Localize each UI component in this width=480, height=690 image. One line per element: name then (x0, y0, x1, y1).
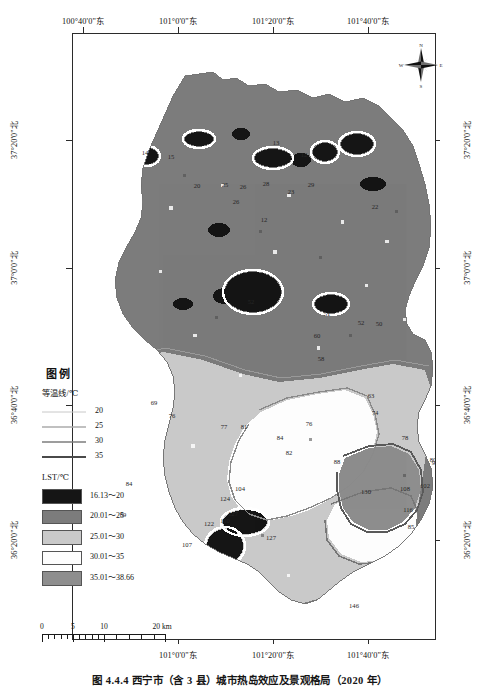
contour-label: 25 (222, 181, 229, 188)
lst-swatch-25-30 (42, 530, 82, 545)
axis-x-top-label-1: 100°40'0"东 (62, 14, 104, 26)
contour-label: 50 (376, 320, 383, 327)
thematic-map-figure: 100°40'0"东 101°0'0"东 101°20'0"东 101°40'0… (0, 0, 480, 690)
scale-tick (129, 634, 130, 639)
axis-y-left-label-4: 36°20'0"北 (7, 521, 19, 559)
scale-tick (54, 634, 55, 639)
scale-tick (154, 634, 155, 639)
scale-tick-label-10: 10 (100, 622, 108, 631)
axis-y-left-label-1: 37°20'0"北 (7, 121, 19, 159)
scale-tick (85, 634, 86, 639)
contour-label: 23 (288, 188, 295, 195)
legend-isotherm-row[interactable]: 30 (40, 434, 162, 449)
contour-label: 90 (432, 459, 436, 466)
contour-label: 28 (263, 180, 270, 187)
isotherm-swatch-35 (42, 454, 86, 460)
legend-isotherm-row[interactable]: 35 (40, 449, 162, 464)
legend-class-label: 35.01～38.66 (90, 574, 134, 583)
legend-isotherm-value: 30 (95, 437, 103, 446)
scale-tick (98, 634, 99, 639)
contour-label: 12 (261, 216, 268, 223)
legend-class-label: 20.01～25 (90, 512, 124, 521)
legend-isotherm-heading: 等温线/℃ (42, 389, 162, 398)
legend-isotherm-value: 35 (95, 452, 103, 461)
legend-class-row[interactable]: 25.01～30 (40, 528, 162, 546)
contour-label: 116 (403, 506, 413, 513)
legend-class-label: 30.01～35 (90, 553, 124, 562)
contour-label: 130 (361, 488, 371, 495)
legend-lst-heading: LST/℃ (42, 473, 162, 482)
axis-x-bottom-label-3: 101°40'0"东 (347, 648, 389, 660)
contour-label: 60 (314, 332, 321, 339)
legend-isotherm-row[interactable]: 25 (40, 419, 162, 434)
axis-y-right-label-2: 37°0'0"北 (460, 251, 472, 285)
contour-label: 22 (372, 203, 379, 210)
legend-class-row[interactable]: 20.01～25 (40, 508, 162, 526)
contour-label: 102 (420, 482, 430, 489)
legend-class-row[interactable]: 30.01～35 (40, 549, 162, 567)
axis-x-bottom-label-1: 101°0'0"东 (159, 648, 197, 660)
lst-swatch-16-20 (42, 489, 82, 504)
axis-x-top-label-4: 101°40'0"东 (347, 14, 389, 26)
contour-label: 110 (220, 517, 230, 524)
legend-class-label: 16.13～20 (90, 492, 124, 501)
contour-label: 13 (273, 139, 280, 146)
contour-label: 20 (194, 182, 201, 189)
legend-class-row[interactable]: 16.13～20 (40, 487, 162, 505)
contour-label: 78 (402, 434, 409, 441)
contour-label: 52 (248, 298, 255, 305)
isotherm-swatch-20 (42, 409, 86, 415)
contour-label: 76 (306, 420, 313, 427)
contour-label: 29 (308, 181, 315, 188)
contour-label: 63 (368, 392, 375, 399)
axis-y-left-label-2: 37°0'0"北 (7, 251, 19, 285)
axis-x-top-label-3: 101°20'0"东 (252, 14, 294, 26)
contour-label: 85 (408, 523, 415, 530)
contour-label: 15 (168, 153, 175, 160)
compass-west-label: W (399, 63, 404, 68)
axis-y-left-label-3: 36°40'0"北 (7, 386, 19, 424)
legend-isotherm-row[interactable]: 20 (40, 404, 162, 419)
scale-tick (79, 634, 80, 639)
legend-class-row[interactable]: 35.01～38.66 (40, 569, 162, 587)
scale-tick (92, 634, 93, 639)
contour-label: 77 (221, 423, 228, 430)
figure-caption: 图 4.4.4 西宁市（含 3 县）城市热岛效应及景观格局（2020 年） (0, 672, 480, 687)
isotherm-swatch-30 (42, 439, 86, 445)
contour-label: 107 (182, 541, 192, 548)
scale-tick (67, 634, 68, 639)
compass-rose: N S E W (398, 40, 444, 90)
lst-swatch-35-3866 (42, 571, 82, 586)
scale-tick (42, 634, 43, 642)
scale-tick-label-0: 0 (40, 622, 44, 631)
contour-label: 81 (241, 423, 248, 430)
axis-y-right-label-3: 36°40'0"北 (460, 386, 472, 424)
lst-swatch-20-25 (42, 510, 82, 525)
isotherm-swatch-25 (42, 424, 86, 430)
contour-label: 127 (266, 534, 276, 541)
contour-label: 52 (358, 319, 365, 326)
contour-label: 74 (372, 409, 379, 416)
contour-label: 108 (400, 485, 410, 492)
contour-label: 127 (228, 510, 238, 517)
contour-label: 58 (318, 355, 325, 362)
scale-tick (48, 634, 49, 639)
compass-north-label: N (419, 43, 423, 48)
contour-label: 26 (233, 198, 240, 205)
legend-class-label: 25.01～30 (90, 533, 124, 542)
scale-tick (73, 634, 74, 642)
compass-east-label: E (439, 63, 442, 68)
contour-label: 84 (277, 434, 284, 441)
contour-label: 12 (301, 151, 308, 158)
axis-y-right-label-1: 37°20'0"北 (460, 121, 472, 159)
contour-label: 82 (286, 449, 293, 456)
contour-label: 76 (169, 412, 176, 419)
axis-y-right-label-4: 36°20'0"北 (460, 521, 472, 559)
axis-x-top-label-2: 101°0'0"东 (159, 14, 197, 26)
scale-tick (61, 634, 62, 639)
legend-title: 图例 (46, 368, 162, 380)
scale-tick-label-20: 20 km (153, 622, 172, 631)
scale-tick-label-5: 5 (71, 622, 75, 631)
scale-tick (141, 634, 142, 639)
scale-bar-ruler (42, 634, 166, 642)
